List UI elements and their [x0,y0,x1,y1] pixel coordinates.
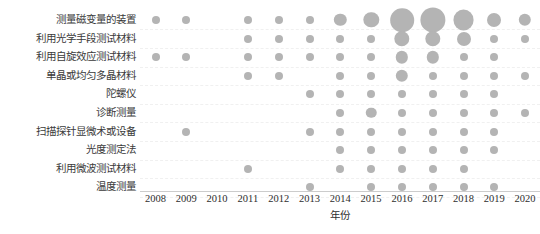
bubble-marker [453,10,474,31]
x-axis-line [140,191,540,192]
bubble-marker [490,53,498,61]
bubble-marker [367,146,375,154]
bubble-marker [182,16,190,24]
x-axis-label: 2019 [484,193,505,204]
bubble-marker [460,72,468,80]
x-axis-label: 2017 [422,193,443,204]
bubble-marker [152,16,160,24]
grid-line [140,141,540,142]
bubble-marker [490,35,498,43]
y-axis-label: 诊断测量 [0,108,136,119]
y-axis-label: 利用光学手段测试材料 [0,33,136,44]
bubble-chart: 测量磁变量的装置利用光学手段测试材料利用自旋效应测试材料单晶或均匀多晶材料陀螺仪… [0,0,540,234]
bubble-marker [366,108,376,118]
bubble-marker [490,128,498,136]
bubble-marker [306,35,314,43]
bubble-marker [490,109,498,117]
bubble-marker [244,72,252,80]
y-axis-label: 光度测定法 [0,145,136,156]
bubble-marker [426,51,438,63]
bubble-marker [306,90,314,98]
bubble-marker [460,146,468,154]
bubble-marker [398,128,406,136]
bubble-marker [429,165,437,173]
bubble-marker [367,72,375,80]
bubble-marker [336,128,344,136]
bubble-marker [275,53,283,61]
bubble-marker [390,8,414,32]
grid-line [140,160,540,161]
bubble-marker [429,109,437,117]
bubble-marker [425,31,440,46]
bubble-marker [429,90,437,98]
x-axis-label: 2016 [391,193,412,204]
x-axis-label: 2020 [515,193,536,204]
bubble-marker [334,14,346,26]
bubble-marker [336,146,344,154]
x-axis-label: 2008 [145,193,166,204]
bubble-marker [490,72,498,80]
x-axis-label: 2009 [176,193,197,204]
x-axis-label: 2014 [330,193,351,204]
grid-line [140,85,540,86]
plot-area [140,0,540,191]
y-axis-label: 利用微波测试材料 [0,164,136,175]
bubble-marker [398,146,406,154]
bubble-marker [182,128,190,136]
bubble-marker [460,90,468,98]
bubble-marker [182,53,190,61]
grid-line [140,178,540,179]
x-axis-label: 2013 [299,193,320,204]
y-axis-label: 利用自旋效应测试材料 [0,52,136,63]
y-axis-label: 测量磁变量的装置 [0,15,136,26]
bubble-marker [429,146,437,154]
bubble-marker [398,109,406,117]
bubble-marker [457,32,471,46]
x-axis-label: 2010 [207,193,228,204]
bubble-marker [275,35,283,43]
bubble-marker [244,35,252,43]
bubble-marker [429,128,437,136]
bubble-marker [396,51,408,63]
bubble-marker [306,16,314,24]
grid-line [140,104,540,105]
bubble-marker [275,16,283,24]
bubble-marker [367,165,375,173]
grid-line [140,67,540,68]
bubble-marker [152,53,160,61]
bubble-marker [398,90,406,98]
y-axis: 测量磁变量的装置利用光学手段测试材料利用自旋效应测试材料单晶或均匀多晶材料陀螺仪… [0,0,136,191]
bubble-marker [336,53,344,61]
bubble-marker [396,70,408,82]
bubble-marker [244,53,252,61]
x-axis-label: 2015 [361,193,382,204]
y-axis-label: 扫描探针显微术或设备 [0,126,136,137]
bubble-marker [336,72,344,80]
bubble-marker [460,109,468,117]
bubble-marker [487,13,501,27]
bubble-marker [275,72,283,80]
bubble-marker [336,35,344,43]
x-axis-title: 年份 [140,207,540,222]
x-axis-label: 2012 [268,193,289,204]
bubble-marker [490,146,498,154]
grid-line [140,48,540,49]
grid-line [140,29,540,30]
bubble-marker [244,165,252,173]
bubble-marker [367,35,375,43]
grid-line [140,122,540,123]
bubble-marker [336,109,344,117]
y-axis-label: 温度测量 [0,182,136,193]
bubble-marker [367,53,375,61]
bubble-marker [521,35,529,43]
bubble-marker [519,14,531,26]
bubble-marker [398,165,406,173]
x-axis-label: 2018 [453,193,474,204]
bubble-marker [367,128,375,136]
bubble-marker [244,16,252,24]
bubble-marker [336,90,344,98]
bubble-marker [306,53,314,61]
bubble-marker [460,53,468,61]
bubble-marker [521,72,529,80]
y-axis-label: 单晶或均匀多晶材料 [0,71,136,82]
